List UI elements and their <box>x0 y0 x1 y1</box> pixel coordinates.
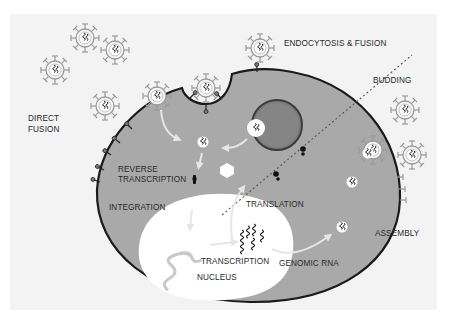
label-direct-fusion-line2: FUSION <box>28 125 60 135</box>
label-reverse-transcription-line1: REVERSE <box>118 165 158 175</box>
label-direct-fusion-line1: DIRECT <box>28 114 59 124</box>
label-genomic-rna: GENOMIC RNA <box>279 259 339 269</box>
label-assembly: ASSEMBLY <box>375 229 419 239</box>
label-translation: TRANSLATION <box>246 200 304 210</box>
label-integration: INTEGRATION <box>109 203 165 213</box>
label-endocytosis-fusion: ENDOCYTOSIS & FUSION <box>284 39 386 49</box>
label-reverse-transcription-line2: TRANSCRIPTION <box>118 175 186 185</box>
label-budding: BUDDING <box>373 76 411 86</box>
label-transcription: TRANSCRIPTION <box>201 257 269 267</box>
label-nucleus: NUCLEUS <box>197 273 237 283</box>
